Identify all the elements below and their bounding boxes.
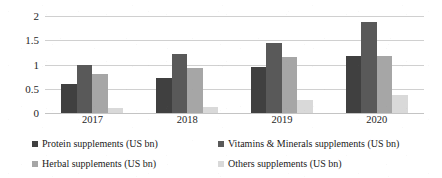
bar-group [329,16,424,113]
legend-item[interactable]: Protein supplements (US bn) [32,139,218,149]
x-axis-label: 2018 [140,115,235,126]
bar [282,57,298,113]
bar [61,84,77,113]
y-axis-tick-label: 0 [34,108,40,119]
bar [77,65,93,114]
x-axis-label: 2017 [45,115,140,126]
legend-swatch-icon [32,161,38,167]
legend-item[interactable]: Others supplements (US bn) [218,159,428,169]
bar-group [45,16,140,113]
bar-group-bars [156,16,218,113]
x-axis-labels: 2017201820192020 [45,115,424,126]
legend-swatch-icon [218,141,224,147]
y-axis-tick-label: 2 [34,11,40,22]
bar [251,67,267,113]
bar [156,78,172,113]
bar-chart: 00.511.52 2017201820192020 Protein suppl… [0,0,442,178]
bar [108,108,124,113]
bar [297,100,313,113]
bar [203,107,219,113]
bar [377,56,393,113]
chart-legend: Protein supplements (US bn)Vitamins & Mi… [32,134,428,174]
y-axis-tick-label: 1 [34,59,40,70]
legend-label: Herbal supplements (US bn) [42,159,156,169]
bar [346,56,362,113]
bar [392,95,408,113]
bar-group [235,16,330,113]
bar-group [140,16,235,113]
y-axis-tick-label: 1.5 [25,35,39,46]
legend-item[interactable]: Herbal supplements (US bn) [32,159,218,169]
legend-label: Vitamins & Minerals supplements (US bn) [228,139,399,149]
bar [266,43,282,113]
legend-label: Protein supplements (US bn) [42,139,158,149]
bar [92,74,108,113]
y-axis-tick-label: 0.5 [25,83,39,94]
bar [187,68,203,113]
bar-groups [45,16,424,113]
bar-group-bars [61,16,123,113]
plot-area: 00.511.52 [45,16,424,113]
bar-group-bars [346,16,408,113]
x-axis-label: 2019 [235,115,330,126]
legend-swatch-icon [32,141,38,147]
bar [172,54,188,113]
bar-group-bars [251,16,313,113]
legend-item[interactable]: Vitamins & Minerals supplements (US bn) [218,139,428,149]
bar [361,22,377,113]
x-axis-label: 2020 [329,115,424,126]
legend-label: Others supplements (US bn) [228,159,342,169]
legend-swatch-icon [218,161,224,167]
